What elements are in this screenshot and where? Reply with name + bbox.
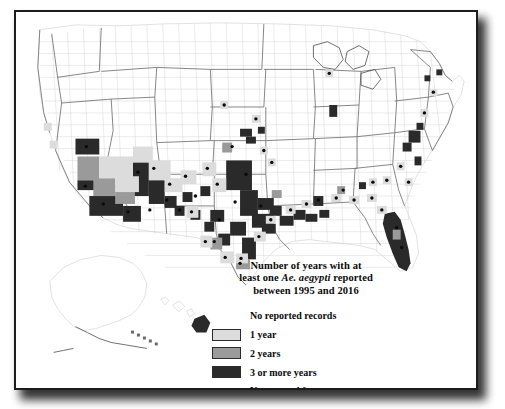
figure-frame: .cty{fill:#ffffff;stroke:#bdbdbd;stroke-… (14, 10, 478, 390)
legend-title: Number of years with at least one Ae. ae… (212, 260, 400, 297)
legend-item-no-records: No reported records (212, 308, 452, 324)
new-record-dot-icon (212, 388, 241, 390)
legend-item-3-plus: 3 or more years (212, 364, 452, 380)
map-legend: Number of years with at least one Ae. ae… (212, 260, 452, 390)
legend-swatch-no-records (212, 310, 241, 322)
species-name: Ae. aegypti (282, 272, 331, 283)
legend-swatch-3-plus (212, 366, 241, 378)
legend-label-3-plus: 3 or more years (250, 367, 317, 378)
legend-title-line-1: Number of years with at (250, 260, 361, 271)
legend-title-line-2-prefix: least one (239, 272, 281, 283)
legend-item-new-record: New record for county (212, 383, 452, 390)
legend-swatch-2-years (212, 347, 241, 359)
alaska-inset (50, 255, 158, 352)
legend-label-1-year: 1 year (250, 329, 276, 340)
legend-swatch-1-year (212, 329, 241, 341)
legend-item-1-year: 1 year (212, 327, 452, 343)
hawaii-inset (161, 297, 211, 333)
legend-title-line-3: between 1995 and 2016 (253, 285, 359, 296)
legend-item-2-years: 2 years (212, 346, 452, 362)
legend-label-new-record: New record for county (250, 385, 346, 390)
legend-title-line-2-suffix: reported (330, 272, 372, 283)
legend-label-2-years: 2 years (250, 348, 280, 359)
legend-label-no-records: No reported records (250, 310, 336, 321)
